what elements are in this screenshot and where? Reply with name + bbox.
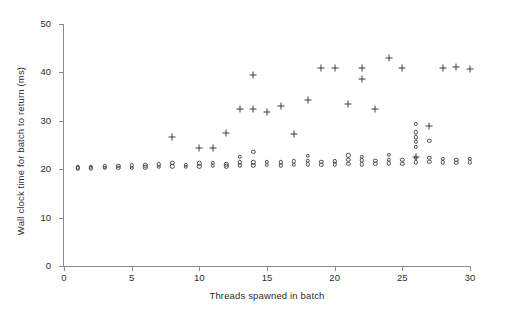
circle-marker	[157, 165, 161, 169]
y-axis-line	[63, 24, 64, 267]
circle-marker	[129, 163, 133, 167]
circle-marker	[129, 166, 133, 170]
circle-marker	[468, 160, 472, 164]
circle-marker	[468, 156, 472, 160]
circle-marker	[454, 161, 458, 165]
circle-marker	[89, 166, 93, 170]
plot-area: 01020304050 051015202530	[64, 24, 470, 266]
circle-marker	[305, 153, 309, 157]
circle-marker	[224, 162, 228, 166]
circle-marker	[211, 161, 215, 165]
plus-marker	[345, 100, 352, 107]
circle-marker	[441, 157, 445, 161]
circle-marker	[224, 164, 228, 168]
circle-marker	[238, 160, 242, 164]
circle-marker	[414, 145, 418, 149]
circle-marker	[332, 159, 336, 163]
circle-marker	[332, 162, 336, 166]
circle-marker	[251, 150, 255, 154]
plus-marker	[358, 76, 365, 83]
circle-marker	[373, 159, 377, 163]
circle-marker	[319, 163, 323, 167]
y-tick-mark: 50	[59, 24, 63, 25]
circle-marker	[427, 156, 431, 160]
circle-marker	[414, 122, 418, 126]
circle-marker	[305, 159, 309, 163]
circle-marker	[454, 157, 458, 161]
y-tick-mark: 20	[59, 169, 63, 170]
y-tick-label: 30	[40, 116, 51, 126]
circle-marker	[346, 153, 350, 157]
circle-marker	[387, 157, 391, 161]
x-tick-label: 0	[61, 273, 66, 283]
circle-marker	[346, 158, 350, 162]
circle-marker	[400, 162, 404, 166]
plus-marker	[453, 63, 460, 70]
circle-marker	[400, 158, 404, 162]
plus-marker	[399, 64, 406, 71]
circle-marker	[360, 158, 364, 162]
circle-marker	[170, 161, 174, 165]
y-tick-mark: 30	[59, 121, 63, 122]
circle-marker	[143, 163, 147, 167]
circle-marker	[387, 161, 391, 165]
circle-marker	[319, 160, 323, 164]
circle-marker	[414, 135, 418, 139]
circle-marker	[414, 130, 418, 134]
circle-marker	[116, 166, 120, 170]
x-tick-mark	[132, 267, 133, 271]
y-tick-label: 0	[46, 261, 51, 271]
circle-marker	[292, 159, 296, 163]
x-tick-label: 20	[329, 273, 340, 283]
plus-marker	[358, 64, 365, 71]
y-tick-mark: 40	[59, 72, 63, 73]
circle-marker	[278, 160, 282, 164]
x-tick-label: 15	[262, 273, 273, 283]
x-tick-mark	[402, 267, 403, 271]
circle-marker	[265, 163, 269, 167]
circle-marker	[197, 161, 201, 165]
plus-marker	[209, 144, 216, 151]
scatter-plot-figure: Wall clock time for batch to return (ms)…	[0, 0, 512, 315]
plus-marker	[250, 72, 257, 79]
circle-marker	[238, 163, 242, 167]
y-tick-label: 50	[40, 19, 51, 29]
circle-marker	[157, 162, 161, 166]
plus-marker	[331, 64, 338, 71]
circle-marker	[197, 164, 201, 168]
circle-marker	[116, 164, 120, 168]
x-tick-mark	[64, 267, 65, 271]
circle-marker	[414, 155, 418, 159]
circle-marker	[414, 140, 418, 144]
plus-marker	[236, 106, 243, 113]
x-tick-mark	[470, 267, 471, 271]
circle-marker	[292, 163, 296, 167]
plus-marker	[169, 134, 176, 141]
circle-marker	[184, 163, 188, 167]
circle-marker	[427, 160, 431, 164]
plus-marker	[426, 122, 433, 129]
plus-marker	[264, 109, 271, 116]
circle-marker	[305, 162, 309, 166]
circle-marker	[278, 163, 282, 167]
x-tick-mark	[199, 267, 200, 271]
plus-marker	[277, 103, 284, 110]
y-tick-mark: 10	[59, 218, 63, 219]
circle-marker	[75, 165, 79, 169]
y-tick-label: 40	[40, 68, 51, 78]
x-tick-label: 25	[397, 273, 408, 283]
circle-marker	[211, 164, 215, 168]
x-tick-label: 5	[129, 273, 134, 283]
plus-marker	[412, 153, 419, 160]
circle-marker	[238, 154, 242, 158]
circle-marker	[251, 160, 255, 164]
circle-marker	[184, 165, 188, 169]
circle-marker	[387, 152, 391, 156]
circle-marker	[441, 160, 445, 164]
plus-marker	[250, 106, 257, 113]
plus-marker	[304, 96, 311, 103]
y-axis-label: Wall clock time for batch to return (ms)	[14, 21, 28, 281]
circle-marker	[360, 155, 364, 159]
circle-marker	[360, 162, 364, 166]
circle-marker	[346, 162, 350, 166]
